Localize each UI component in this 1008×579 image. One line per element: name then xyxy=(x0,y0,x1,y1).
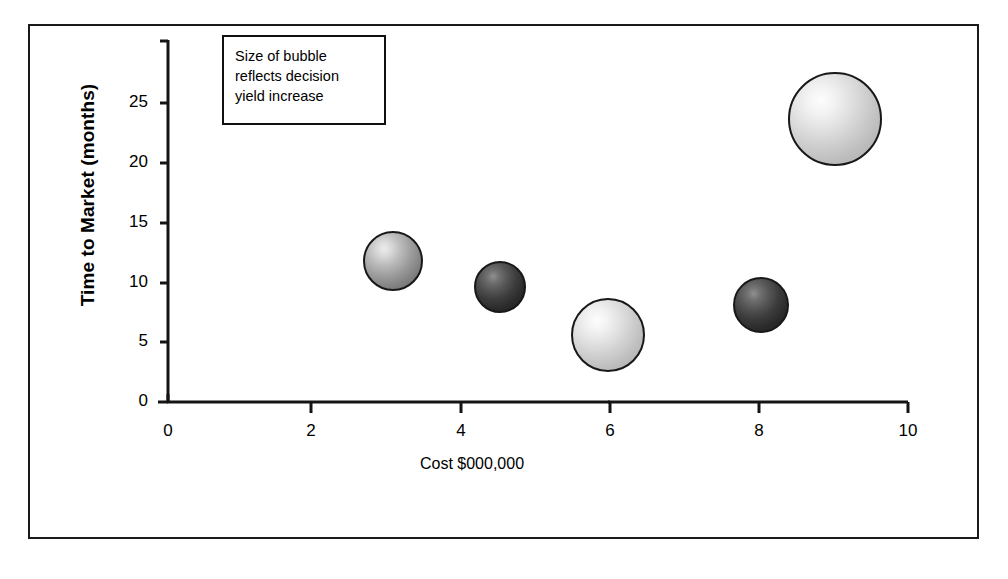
x-tick-label-0: 0 xyxy=(148,421,188,441)
y-tick-label-20: 20 xyxy=(108,152,148,172)
x-tick-label-2: 2 xyxy=(291,421,331,441)
x-axis-title: Cost $000,000 xyxy=(167,455,777,473)
y-tick-label-5: 5 xyxy=(108,331,148,351)
size-legend-note: Size of bubble reflects decision yield i… xyxy=(222,35,386,125)
x-tick-label-4: 4 xyxy=(441,421,481,441)
y-tick-label-10: 10 xyxy=(108,272,148,292)
note-line-1: Size of bubble xyxy=(235,46,384,66)
y-axis-title: Time to Market (months) xyxy=(77,45,99,345)
x-tick-label-6: 6 xyxy=(590,421,630,441)
y-tick-label-0: 0 xyxy=(108,391,148,411)
y-tick-label-15: 15 xyxy=(108,212,148,232)
bubble-point xyxy=(363,231,423,291)
x-tick-label-10: 10 xyxy=(888,421,928,441)
x-tick-label-8: 8 xyxy=(739,421,779,441)
bubble-chart-figure: Time to Market (months) Cost $000,000 25… xyxy=(0,0,1008,579)
note-line-2: reflects decision xyxy=(235,66,384,86)
y-tick-label-25: 25 xyxy=(108,92,148,112)
bubble-point xyxy=(788,72,882,166)
bubble-point xyxy=(571,298,645,372)
note-line-3: yield increase xyxy=(235,86,384,106)
